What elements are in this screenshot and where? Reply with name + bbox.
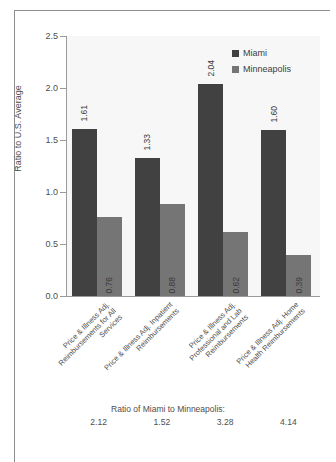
y-axis-tick [60, 140, 66, 141]
bar-miami-3: 2.04 [198, 84, 223, 296]
legend-item-miami: Miami [232, 47, 291, 60]
chart-legend: Miami Minneapolis [232, 47, 291, 79]
legend-item-minneapolis: Minneapolis [232, 63, 291, 76]
footer-ratio-value-2: 1.52 [142, 417, 182, 427]
y-axis-tick-label: 2.5 [22, 32, 58, 41]
legend-label-miami: Miami [243, 47, 267, 60]
bar-miami-1: 1.61 [72, 129, 97, 296]
bar-value-label: 1.33 [143, 134, 152, 151]
bar-value-label: 2.04 [206, 60, 215, 77]
bar-value-label: 0.76 [105, 277, 114, 294]
y-axis-tick [60, 192, 66, 193]
footer-title: Ratio of Miami to Minneapolis: [0, 404, 336, 414]
bar-value-label: 0.39 [295, 277, 304, 294]
grouped-bar-chart: 0.00.51.01.52.02.5 Ratio to U.S. Average… [0, 0, 336, 462]
y-axis-tick [60, 36, 66, 37]
legend-label-minneapolis: Minneapolis [243, 63, 291, 76]
legend-swatch-icon-miami [232, 50, 239, 57]
y-axis-tick [60, 88, 66, 89]
bar-miami-2: 1.33 [135, 158, 160, 296]
y-axis-tick-label: 2.0 [22, 84, 58, 93]
bar-value-label: 0.62 [231, 277, 240, 294]
footer-ratio-value-1: 2.12 [79, 417, 119, 427]
bar-miami-4: 1.60 [261, 130, 286, 296]
bar-minneapolis-1: 0.76 [97, 217, 122, 296]
bar-minneapolis-4: 0.39 [286, 255, 311, 296]
y-axis-tick-label: 0.0 [22, 292, 58, 301]
bar-value-label: 1.60 [270, 106, 279, 123]
y-axis-tick-label: 1.0 [22, 188, 58, 197]
y-axis-title: Ratio to U.S. Average [14, 49, 23, 209]
bar-value-label: 0.88 [168, 277, 177, 294]
bar-value-label: 1.61 [80, 105, 89, 122]
footer-ratio-value-3: 3.28 [205, 417, 245, 427]
legend-swatch-icon-minneapolis [232, 66, 239, 73]
y-axis-line [66, 36, 67, 297]
x-axis-line [66, 296, 320, 297]
bar-minneapolis-3: 0.62 [223, 232, 248, 296]
y-axis-tick-label: 0.5 [22, 240, 58, 249]
bar-minneapolis-2: 0.88 [160, 204, 185, 296]
y-axis-tick-label: 1.5 [22, 136, 58, 145]
footer-ratio-value-4: 4.14 [268, 417, 308, 427]
y-axis-tick [60, 244, 66, 245]
